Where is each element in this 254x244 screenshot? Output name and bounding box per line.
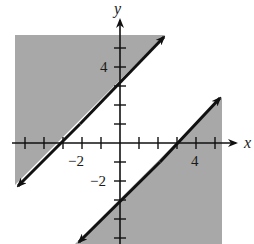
x-axis-label: x <box>243 134 251 151</box>
x-tick-label-neg2: −2 <box>68 153 84 169</box>
y-axis-label: y <box>112 0 122 18</box>
inequality-graph: x −2 4 y 4 −2 <box>0 0 254 244</box>
y-tick-label-neg2: −2 <box>90 173 106 189</box>
y-tick-label-4: 4 <box>100 59 108 75</box>
x-tick-label-4: 4 <box>191 153 199 169</box>
